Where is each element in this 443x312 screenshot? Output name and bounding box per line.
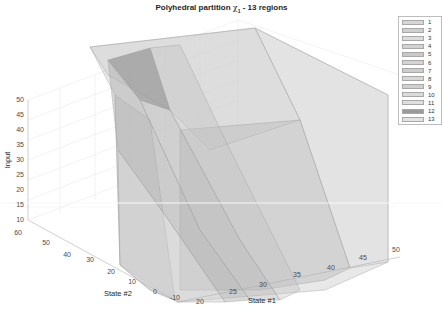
svg-text:60: 60 bbox=[14, 229, 22, 236]
legend-item: 10 bbox=[399, 91, 441, 99]
svg-text:25: 25 bbox=[229, 288, 237, 295]
y-axis-label: State #2 bbox=[104, 289, 132, 298]
legend-item: 6 bbox=[399, 58, 441, 66]
svg-text:50: 50 bbox=[42, 239, 50, 246]
svg-text:40: 40 bbox=[16, 126, 24, 133]
svg-text:50: 50 bbox=[16, 96, 24, 103]
legend-swatch bbox=[402, 92, 424, 97]
z-axis-label: Input bbox=[3, 151, 12, 169]
svg-text:45: 45 bbox=[359, 254, 367, 261]
legend-item: 1 bbox=[399, 18, 441, 26]
svg-text:-10: -10 bbox=[170, 294, 180, 301]
legend-swatch bbox=[402, 68, 424, 73]
legend: 1 2 3 4 5 6 7 8 9 10 11 12 13 bbox=[398, 16, 442, 125]
svg-text:20: 20 bbox=[16, 186, 24, 193]
svg-text:10: 10 bbox=[128, 278, 136, 285]
legend-item: 9 bbox=[399, 83, 441, 91]
z-axis-ticks: 50 45 40 35 30 25 20 15 10 bbox=[16, 96, 24, 223]
polyhedra bbox=[90, 28, 388, 302]
legend-item: 7 bbox=[399, 67, 441, 75]
legend-item: 5 bbox=[399, 50, 441, 58]
legend-item: 3 bbox=[399, 34, 441, 42]
legend-swatch bbox=[402, 28, 424, 33]
legend-item: 13 bbox=[399, 115, 441, 123]
legend-swatch bbox=[402, 20, 424, 25]
legend-item: 11 bbox=[399, 99, 441, 107]
svg-text:30: 30 bbox=[259, 281, 267, 288]
legend-item: 12 bbox=[399, 107, 441, 115]
svg-text:20: 20 bbox=[196, 298, 204, 305]
legend-item: 4 bbox=[399, 42, 441, 50]
legend-swatch bbox=[402, 44, 424, 49]
x-axis-label: State #1 bbox=[248, 296, 276, 305]
legend-swatch bbox=[402, 60, 424, 65]
svg-text:35: 35 bbox=[16, 141, 24, 148]
legend-swatch bbox=[402, 84, 424, 89]
legend-swatch bbox=[402, 36, 424, 41]
legend-item: 2 bbox=[399, 26, 441, 34]
svg-text:0: 0 bbox=[153, 288, 157, 295]
svg-text:45: 45 bbox=[16, 111, 24, 118]
legend-item: 8 bbox=[399, 75, 441, 83]
legend-swatch bbox=[402, 100, 424, 105]
svg-text:40: 40 bbox=[327, 264, 335, 271]
svg-text:25: 25 bbox=[16, 171, 24, 178]
svg-text:35: 35 bbox=[293, 271, 301, 278]
svg-text:30: 30 bbox=[86, 256, 94, 263]
legend-swatch bbox=[402, 117, 424, 122]
svg-text:10: 10 bbox=[16, 216, 24, 223]
plot-area: 50 45 40 35 30 25 20 15 10 Input 60 50 4… bbox=[0, 0, 443, 312]
svg-text:30: 30 bbox=[16, 156, 24, 163]
svg-text:15: 15 bbox=[16, 201, 24, 208]
legend-swatch bbox=[402, 76, 424, 81]
legend-swatch bbox=[402, 109, 424, 114]
svg-text:50: 50 bbox=[392, 246, 400, 253]
svg-text:40: 40 bbox=[63, 251, 71, 258]
legend-swatch bbox=[402, 52, 424, 57]
svg-text:20: 20 bbox=[107, 268, 115, 275]
